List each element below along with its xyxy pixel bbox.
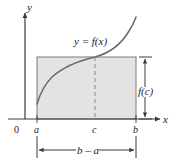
- y-axis-label: y: [26, 1, 32, 13]
- x-tick-label-a: a: [34, 124, 39, 135]
- width-label-b-minus-a: b – a: [77, 144, 100, 156]
- x-axis-label: x: [162, 113, 168, 125]
- figure-container: y x 0 a c b y = f(x) f(c) b – a: [0, 0, 173, 165]
- height-label-fc: f(c): [138, 85, 154, 98]
- mean-value-rectangle: [37, 57, 136, 119]
- x-tick-label-b: b: [133, 124, 138, 135]
- x-tick-label-c: c: [92, 124, 97, 135]
- mean-value-theorem-figure: y x 0 a c b y = f(x) f(c) b – a: [0, 0, 173, 165]
- curve-label: y = f(x): [73, 35, 107, 48]
- origin-label: 0: [14, 124, 19, 135]
